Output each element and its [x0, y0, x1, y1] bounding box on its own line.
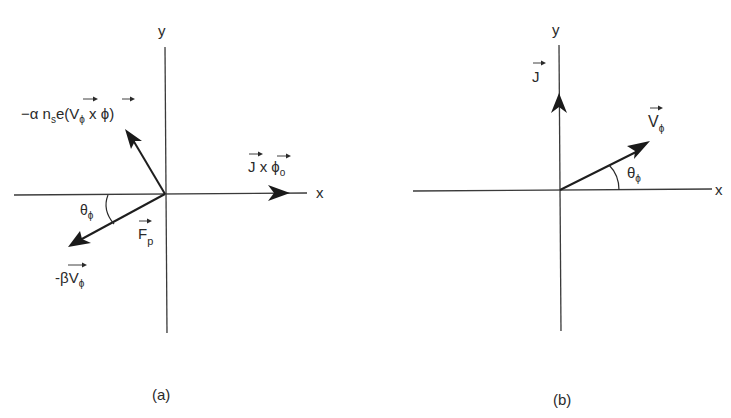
svg-text:θϕ: θϕ — [80, 202, 94, 221]
panel-a-force-label: Fp — [138, 219, 153, 248]
panel-a-angle-arc — [106, 195, 114, 224]
panel-b-caption: (b) — [553, 391, 571, 408]
panel-a-y-label: y — [158, 22, 166, 39]
svg-text:−α nse(Vϕ x ϕ): −α nse(Vϕ x ϕ) — [21, 105, 114, 125]
svg-text:θϕ: θϕ — [627, 164, 641, 184]
panel-b-y-axis — [559, 45, 561, 331]
diagram-canvas: y x −α nse(Vϕ x ϕ) J x ϕo — [0, 0, 731, 418]
panel-b-y-label: y — [552, 21, 560, 38]
panel-a-jxphi-label: J x ϕo — [248, 152, 291, 179]
svg-text:Vϕ: Vϕ — [648, 113, 665, 134]
panel-b-x-label: x — [715, 181, 723, 198]
panel-a-lorentz-arrowhead-icon — [125, 129, 142, 149]
panel-a-y-axis — [165, 47, 167, 333]
panel-a-angle-label: θϕ — [80, 202, 94, 221]
panel-b-angle-label: θϕ — [627, 164, 641, 184]
panel-a: y x −α nse(Vϕ x ϕ) J x ϕo — [14, 22, 324, 403]
svg-text:Fp: Fp — [138, 225, 153, 247]
panel-a-drag-arrowhead-icon — [68, 231, 91, 247]
svg-text:-βVϕ: -βVϕ — [55, 269, 85, 289]
panel-b-angle-arc — [609, 165, 619, 190]
panel-a-x-axis — [14, 193, 307, 195]
panel-b-velocity-arrowhead-icon — [627, 141, 650, 159]
panel-b: y x J Vϕ θϕ (b) — [413, 21, 723, 408]
panel-a-x-label: x — [316, 184, 324, 201]
panel-a-drag-label: -βVϕ — [55, 263, 87, 290]
panel-b-current-label: J — [532, 61, 546, 86]
svg-text:J: J — [532, 68, 540, 85]
panel-a-lorentz-vector — [133, 140, 165, 194]
panel-a-caption: (a) — [152, 386, 170, 403]
panel-a-lorentz-label: −α nse(Vϕ x ϕ) — [21, 97, 135, 126]
panel-b-velocity-label: Vϕ — [648, 106, 665, 135]
svg-text:J x ϕo: J x ϕo — [248, 158, 286, 178]
